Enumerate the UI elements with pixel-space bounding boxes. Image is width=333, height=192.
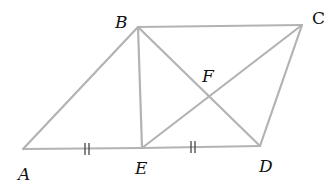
label-E: E bbox=[134, 158, 148, 178]
segment-BE bbox=[138, 27, 142, 148]
segment-CD bbox=[260, 25, 302, 146]
label-B: B bbox=[114, 12, 128, 32]
label-D: D bbox=[258, 156, 273, 176]
segment-BD bbox=[138, 27, 260, 146]
segment-ED bbox=[142, 146, 260, 148]
segment-BC bbox=[138, 25, 302, 27]
segment-AE bbox=[23, 148, 142, 149]
segment-AB bbox=[23, 27, 138, 149]
segment-EC bbox=[142, 25, 302, 148]
label-A: A bbox=[16, 164, 30, 184]
geometry-diagram: A B C D E F bbox=[0, 0, 333, 192]
label-C: C bbox=[312, 8, 325, 28]
label-F: F bbox=[201, 66, 215, 86]
